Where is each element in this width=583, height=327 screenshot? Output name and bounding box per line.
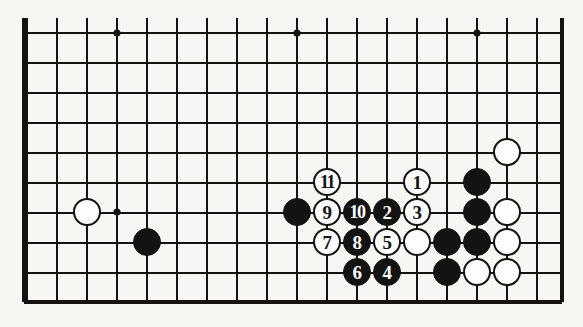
- stone-white-3: [493, 138, 521, 166]
- stone-black-11: [433, 258, 461, 286]
- stone-move-6-black: 6: [343, 258, 371, 286]
- stone-move-number: 3: [413, 202, 422, 221]
- stone-move-number: 8: [353, 232, 362, 251]
- stone-move-number: 2: [383, 202, 392, 221]
- stone-white-13: [493, 258, 521, 286]
- stone-move-number: 5: [383, 232, 392, 251]
- stone-move-number: 9: [323, 202, 332, 221]
- stone-white-6: [493, 198, 521, 226]
- stone-move-9-white: 9: [313, 198, 341, 226]
- stone-move-number: 4: [383, 262, 392, 281]
- stone-white-0: [73, 198, 101, 226]
- stone-move-number: 6: [353, 262, 362, 281]
- stone-move-number: 11: [320, 173, 334, 191]
- stone-move-number: 7: [323, 232, 332, 251]
- stone-move-4-black: 4: [373, 258, 401, 286]
- stone-white-12: [463, 258, 491, 286]
- stone-move-number: 1: [413, 172, 422, 191]
- stone-move-5-white: 5: [373, 228, 401, 256]
- stone-move-3-white: 3: [403, 198, 431, 226]
- stone-black-5: [463, 198, 491, 226]
- stone-white-7: [403, 228, 431, 256]
- stone-move-11-white: 11: [313, 168, 341, 196]
- stone-black-8: [433, 228, 461, 256]
- stone-black-2: [283, 198, 311, 226]
- stone-black-4: [463, 168, 491, 196]
- go-board-diagram: 1119102378564: [0, 0, 583, 327]
- stone-white-10: [493, 228, 521, 256]
- stone-move-number: 10: [350, 203, 365, 221]
- stone-layer: 1119102378564: [0, 0, 583, 327]
- stone-move-2-black: 2: [373, 198, 401, 226]
- stone-black-1: [133, 228, 161, 256]
- stone-move-7-white: 7: [313, 228, 341, 256]
- stone-move-10-black: 10: [343, 198, 371, 226]
- stone-move-8-black: 8: [343, 228, 371, 256]
- stone-black-9: [463, 228, 491, 256]
- stone-move-1-white: 1: [403, 168, 431, 196]
